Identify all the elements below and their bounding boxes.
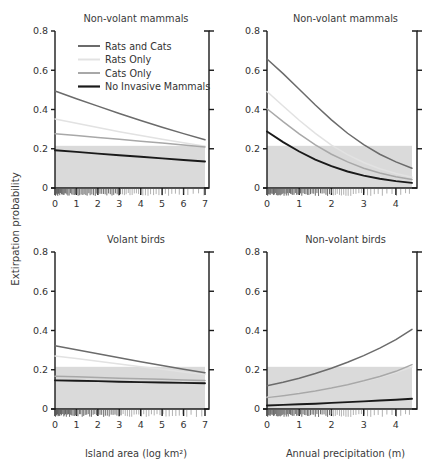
x-tick-label: 3: [361, 198, 367, 209]
y-axis-title: Extirpation probability: [10, 172, 21, 285]
shaded-band: [267, 146, 412, 188]
rug-plot: [55, 189, 204, 196]
x-tick-label: 3: [361, 419, 367, 430]
rug-plot: [268, 189, 410, 196]
curve-cats-only: [55, 134, 205, 147]
legend-label-1: Rats Only: [105, 54, 151, 65]
x-tick-label: 3: [116, 198, 122, 209]
y-tick-label: 0.2: [33, 143, 48, 154]
shaded-band: [55, 367, 205, 409]
panel-title: Non-volant birds: [305, 234, 386, 245]
panel-title: Non-volant mammals: [84, 13, 189, 24]
x-tick-label: 2: [95, 198, 101, 209]
legend-label-2: Cats Only: [105, 68, 152, 79]
x-tick-label: 2: [328, 419, 334, 430]
panel-bottom-right: 00.20.40.60.801234Non-volant birds: [245, 234, 422, 430]
x-tick-label: 6: [181, 419, 187, 430]
x-tick-label: 4: [393, 419, 399, 430]
y-tick-label: 0.6: [245, 286, 260, 297]
y-tick-label: 0.4: [33, 104, 48, 115]
y-tick-label: 0: [42, 182, 48, 193]
x-tick-label: 0: [52, 419, 58, 430]
figure-container: 00.20.40.60.801234567Non-volant mammals0…: [0, 0, 442, 459]
multi-panel-chart: 00.20.40.60.801234567Non-volant mammals0…: [0, 0, 442, 459]
y-tick-label: 0.2: [33, 364, 48, 375]
secondary-y-axis-spine: [412, 31, 417, 188]
y-tick-label: 0.8: [33, 25, 48, 36]
x-tick-label: 4: [393, 198, 399, 209]
secondary-y-axis-spine: [412, 252, 417, 409]
x-tick-label: 3: [116, 419, 122, 430]
x-tick-label: 6: [181, 198, 187, 209]
y-tick-label: 0.6: [33, 286, 48, 297]
panel-title: Non-volant mammals: [293, 13, 398, 24]
x-tick-label: 7: [202, 198, 208, 209]
y-tick-label: 0.2: [245, 364, 260, 375]
y-tick-label: 0.4: [245, 104, 260, 115]
x-tick-label: 5: [159, 419, 165, 430]
x-tick-label: 4: [138, 419, 144, 430]
x-axis-title-right: Annual precipitation (m): [286, 448, 405, 459]
y-tick-label: 0.2: [245, 143, 260, 154]
y-tick-label: 0.8: [245, 25, 260, 36]
x-tick-label: 4: [138, 198, 144, 209]
legend: Rats and CatsRats OnlyCats OnlyNo Invasi…: [78, 41, 210, 93]
legend-label-0: Rats and Cats: [105, 41, 172, 52]
panel-bottom-left: 00.20.40.60.801234567Volant birds: [33, 234, 214, 430]
y-tick-label: 0.6: [245, 65, 260, 76]
x-tick-label: 0: [52, 198, 58, 209]
x-tick-label: 1: [296, 198, 302, 209]
legend-label-3: No Invasive Mammals: [105, 81, 210, 92]
panel-top-right: 00.20.40.60.801234Non-volant mammals: [245, 13, 422, 209]
y-tick-label: 0.4: [245, 325, 260, 336]
x-tick-label: 0: [264, 419, 270, 430]
rug-plot: [268, 410, 410, 417]
y-tick-label: 0: [254, 182, 260, 193]
x-tick-label: 5: [159, 198, 165, 209]
y-tick-label: 0: [42, 403, 48, 414]
y-tick-label: 0.8: [33, 246, 48, 257]
curve-rats-and-cats: [55, 91, 205, 140]
x-tick-label: 2: [95, 419, 101, 430]
y-tick-label: 0: [254, 403, 260, 414]
x-tick-label: 0: [264, 198, 270, 209]
x-tick-label: 1: [73, 198, 79, 209]
y-tick-label: 0.8: [245, 246, 260, 257]
x-tick-label: 7: [202, 419, 208, 430]
x-axis-title-left: Island area (log km²): [85, 448, 187, 459]
x-tick-label: 1: [73, 419, 79, 430]
y-tick-label: 0.4: [33, 325, 48, 336]
y-tick-label: 0.6: [33, 65, 48, 76]
x-tick-label: 1: [296, 419, 302, 430]
rug-plot: [55, 410, 201, 417]
panel-title: Volant birds: [107, 234, 165, 245]
x-tick-label: 2: [328, 198, 334, 209]
